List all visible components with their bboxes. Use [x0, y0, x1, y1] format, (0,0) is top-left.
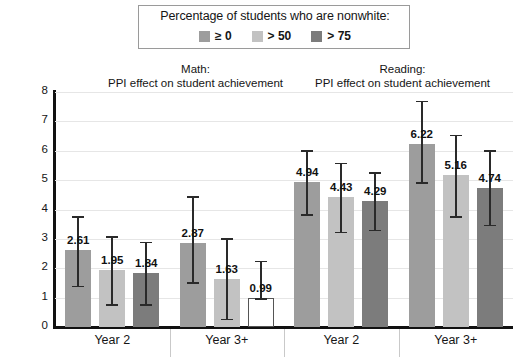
- bar-value-label: 4.29: [357, 185, 393, 197]
- error-bar-cap-lower: [369, 230, 381, 232]
- error-bar-cap-lower: [106, 304, 118, 306]
- error-bar-cap-lower: [221, 319, 233, 321]
- bar-value-label: 1.95: [94, 254, 130, 266]
- panel-title-reading: Reading: PPI effect on student achieveme…: [290, 63, 515, 90]
- x-axis-label: Year 2: [55, 333, 170, 347]
- error-bar-cap-lower: [301, 214, 313, 216]
- error-bar-cap-upper: [140, 242, 152, 244]
- panel-title-math-line1: Math:: [181, 63, 210, 75]
- legend-swatch-icon: [252, 31, 263, 42]
- bar-value-label: 4.94: [289, 166, 325, 178]
- bar-value-label: 5.16: [438, 159, 474, 171]
- gridline: [55, 121, 513, 122]
- legend-swatch-icon: [311, 31, 322, 42]
- error-bar: [192, 196, 194, 282]
- panel-title-reading-line1: Reading:: [379, 63, 425, 75]
- bar[interactable]: [248, 298, 274, 327]
- y-axis-tick-label: 5: [8, 172, 48, 184]
- x-axis-label: Year 3+: [170, 333, 285, 347]
- panel-title-math-line2: PPI effect on student achievement: [108, 77, 283, 89]
- legend-item-label: > 75: [327, 29, 351, 43]
- y-axis-tick-label: 4: [8, 202, 48, 214]
- y-axis-tick-label: 0: [8, 319, 48, 331]
- panel-title-reading-line2: PPI effect on student achievement: [315, 77, 490, 89]
- bar-value-label: 2.61: [60, 234, 96, 246]
- error-bar-cap-upper: [187, 196, 199, 198]
- bar-value-label: 2.87: [175, 227, 211, 239]
- legend-item-label: ≥ 0: [215, 29, 232, 43]
- bar-value-label: 1.63: [209, 263, 245, 275]
- error-bar-cap-upper: [484, 150, 496, 152]
- y-axis-tick-label: 6: [8, 143, 48, 155]
- y-axis-tick-label: 7: [8, 113, 48, 125]
- bar-value-label: 4.43: [323, 181, 359, 193]
- error-bar-cap-lower: [484, 225, 496, 227]
- bar-value-label: 4.74: [472, 172, 508, 184]
- error-bar-cap-lower: [187, 282, 199, 284]
- error-bar: [77, 216, 79, 286]
- y-axis-tick-label: 3: [8, 231, 48, 243]
- error-bar-cap-upper: [450, 135, 462, 137]
- legend-title: Percentage of students who are nonwhite:: [139, 9, 411, 23]
- bar-value-label: 6.22: [404, 128, 440, 140]
- bar-value-label: 0.99: [243, 282, 279, 294]
- legend-swatch-icon: [199, 31, 210, 42]
- error-bar: [374, 172, 376, 229]
- legend-items: ≥ 0 > 50 > 75: [139, 29, 411, 43]
- error-bar-cap-lower: [450, 216, 462, 218]
- error-bar-cap-lower: [416, 182, 428, 184]
- legend-item-gt50: > 50: [252, 29, 292, 43]
- y-axis-tick-label: 2: [8, 260, 48, 272]
- x-axis-label: Year 3+: [399, 333, 514, 347]
- x-axis-label: Year 2: [284, 333, 399, 347]
- error-bar-cap-upper: [416, 101, 428, 103]
- error-bar: [455, 135, 457, 216]
- bar-value-label: 1.84: [128, 257, 164, 269]
- error-bar: [340, 163, 342, 232]
- legend-item-gt75: > 75: [311, 29, 351, 43]
- error-bar-cap-upper: [221, 238, 233, 240]
- chart-figure: Percentage of students who are nonwhite:…: [0, 0, 518, 364]
- error-bar-cap-lower: [140, 304, 152, 306]
- error-bar-cap-lower: [72, 286, 84, 288]
- error-bar-cap-lower: [335, 232, 347, 234]
- legend: Percentage of students who are nonwhite:…: [138, 5, 410, 49]
- gridline: [55, 151, 513, 152]
- gridline: [55, 92, 513, 93]
- error-bar-cap-upper: [301, 150, 313, 152]
- y-axis-tick-label: 8: [8, 84, 48, 96]
- error-bar-cap-upper: [106, 236, 118, 238]
- error-bar: [145, 242, 147, 305]
- legend-item-ge0: ≥ 0: [199, 29, 232, 43]
- error-bar: [111, 236, 113, 304]
- error-bar-cap-lower: [255, 298, 267, 300]
- error-bar: [226, 238, 228, 318]
- y-axis-tick-label: 1: [8, 290, 48, 302]
- error-bar: [489, 150, 491, 225]
- legend-item-label: > 50: [268, 29, 292, 43]
- error-bar-cap-upper: [255, 261, 267, 263]
- error-bar-cap-upper: [72, 216, 84, 218]
- panel-title-math: Math: PPI effect on student achievement: [88, 63, 303, 90]
- error-bar: [306, 150, 308, 213]
- error-bar-cap-upper: [369, 172, 381, 174]
- error-bar: [421, 101, 423, 183]
- error-bar-cap-upper: [335, 163, 347, 165]
